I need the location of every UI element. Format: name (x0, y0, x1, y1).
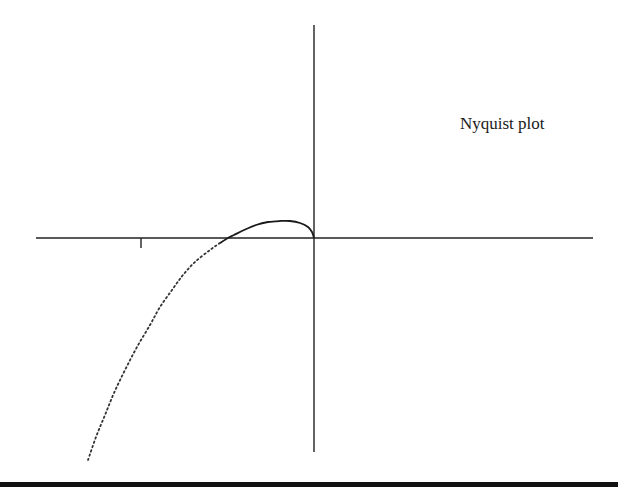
nyquist-plot (0, 0, 618, 489)
nyquist-curve-dotted (88, 243, 220, 460)
nyquist-curve-solid (220, 221, 314, 243)
plot-title: Nyquist plot (460, 114, 545, 134)
bottom-border-bar (0, 482, 618, 487)
